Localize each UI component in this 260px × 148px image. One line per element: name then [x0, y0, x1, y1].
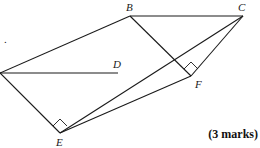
- vertex-label-e: E: [55, 136, 63, 148]
- vertex-label-d: D: [112, 58, 121, 70]
- vertex-label-b: B: [126, 1, 133, 13]
- stray-punctuation: .: [4, 33, 7, 45]
- geometry-diagram: . B C D F E: [0, 0, 260, 148]
- edge-e-c: [60, 16, 243, 133]
- right-angle-marker-e: [53, 119, 67, 126]
- vertex-label-f: F: [194, 78, 202, 90]
- vertex-label-c: C: [238, 1, 246, 13]
- edge-f-c: [191, 16, 243, 76]
- marks-label: (3 marks): [208, 127, 258, 142]
- edge-a-b: [0, 16, 130, 73]
- edge-a-e: [0, 73, 60, 133]
- edge-e-f: [60, 76, 191, 133]
- right-angle-marker-f: [184, 62, 198, 69]
- edge-b-f: [130, 16, 191, 76]
